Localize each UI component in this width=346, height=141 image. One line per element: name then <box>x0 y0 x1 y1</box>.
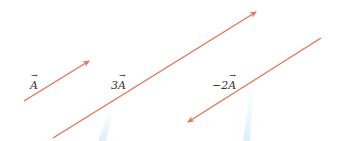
vector-diagram: A 3A −2A <box>0 0 346 141</box>
vector-neg2a-arrow <box>188 38 321 122</box>
label-prefix: −2 <box>212 79 228 92</box>
diagram-canvas <box>0 0 346 141</box>
vector-3a-arrow <box>53 12 256 138</box>
background-streak <box>243 82 254 141</box>
vector-symbol: A <box>118 79 126 92</box>
vector-symbol: A <box>30 79 38 92</box>
label-vector-3a: 3A <box>111 79 126 92</box>
background-streak <box>98 106 114 141</box>
label-vector-neg2a: −2A <box>212 79 236 92</box>
label-prefix: 3 <box>111 79 118 92</box>
label-vector-a: A <box>30 79 38 92</box>
vector-symbol: A <box>228 79 236 92</box>
